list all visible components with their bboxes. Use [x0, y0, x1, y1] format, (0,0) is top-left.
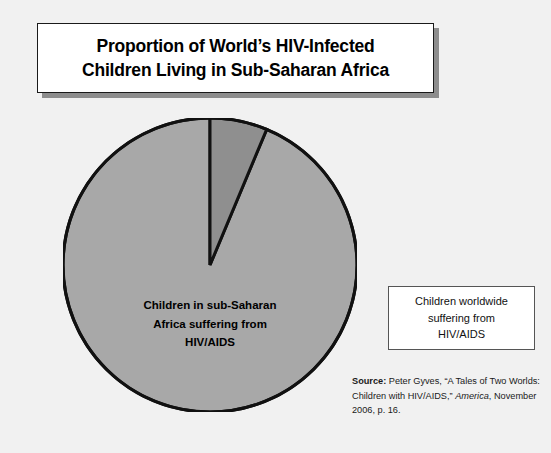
chart-title-box: Proportion of World’s HIV-Infected Child…	[37, 23, 434, 93]
source-citation: Source: Peter Gyves, “A Tales of Two Wor…	[352, 374, 544, 418]
pie-chart	[63, 118, 357, 412]
source-publication-name: America	[455, 391, 489, 401]
legend-line-2: suffering from	[428, 310, 495, 327]
pie-label-line-2: Africa suffering from	[95, 315, 325, 334]
page-title-line-1: Proportion of World’s HIV-Infected	[96, 34, 374, 58]
legend-line-1: Children worldwide	[415, 293, 508, 310]
pie-label-line-3: HIV/AIDS	[95, 333, 325, 352]
legend-line-3: HIV/AIDS	[438, 326, 485, 343]
pie-label-line-1: Children in sub-Saharan	[95, 296, 325, 315]
legend-box-worldwide: Children worldwide suffering from HIV/AI…	[388, 286, 535, 350]
page-title-line-2: Children Living in Sub-Saharan Africa	[82, 58, 389, 82]
pie-slice-label-sub-saharan: Children in sub-Saharan Africa suffering…	[95, 296, 325, 352]
source-label: Source:	[352, 376, 386, 386]
